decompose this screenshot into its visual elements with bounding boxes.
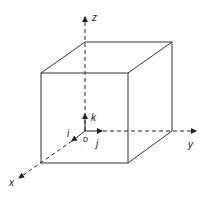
origin-label: o <box>83 134 88 144</box>
j-vector-label: j <box>94 138 99 149</box>
cube-axes-diagram: z y x k j i o <box>0 0 208 200</box>
z-axis-label: z <box>91 12 97 23</box>
y-axis-label: y <box>187 139 194 150</box>
cube-depth-edges <box>41 42 172 163</box>
i-vector-label: i <box>67 128 70 139</box>
x-axis-label: x <box>8 177 15 188</box>
x-axis <box>19 141 72 178</box>
k-vector-label: k <box>91 112 97 123</box>
